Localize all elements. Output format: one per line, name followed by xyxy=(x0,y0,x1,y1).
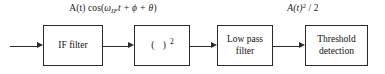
if-filter-block-label: IF filter xyxy=(58,40,87,52)
squarer-block-parens: ( ) xyxy=(151,40,169,50)
if-filter-to-squarer-line xyxy=(103,46,128,47)
input-signal-cos-open: cos( xyxy=(88,3,104,13)
threshold-detection-block[interactable]: Threshold detection xyxy=(305,25,368,66)
if-filter-block[interactable]: IF filter xyxy=(43,25,103,66)
low-pass-filter-block[interactable]: Low pass filter xyxy=(217,25,273,66)
low-pass-to-threshold-line xyxy=(273,46,299,47)
input-signal-amplitude: A(t) xyxy=(69,3,88,13)
squarer-block[interactable]: ( )2 xyxy=(134,25,190,66)
output-signal-divisor: / 2 xyxy=(306,3,319,13)
threshold-detection-block-label-line1: Threshold xyxy=(317,34,356,44)
threshold-detection-block-label-line2: detection xyxy=(319,46,354,56)
block-diagram-canvas: A(t) cos(ωIFt + ϕ + θ) A(t)2 / 2 IF filt… xyxy=(0,0,385,74)
squarer-to-low-pass-line xyxy=(190,46,211,47)
output-signal-amplitude: A(t) xyxy=(287,3,302,13)
input-signal-omega: ω xyxy=(104,3,111,13)
squarer-block-exponent: 2 xyxy=(170,37,174,46)
input-signal-phase-terms: + ϕ + θ xyxy=(121,3,154,13)
output-signal-label: A(t)2 / 2 xyxy=(287,2,318,16)
low-pass-filter-block-label-line1: Low pass xyxy=(227,34,263,44)
input-signal-close-paren: ) xyxy=(153,3,156,13)
low-pass-filter-block-label-line2: filter xyxy=(236,46,254,56)
input-signal-label: A(t) cos(ωIFt + ϕ + θ) xyxy=(69,2,156,16)
input-signal-subscript: IF xyxy=(111,7,118,15)
output-signal-exponent: 2 xyxy=(303,2,307,10)
input-arrow-line xyxy=(10,46,37,47)
